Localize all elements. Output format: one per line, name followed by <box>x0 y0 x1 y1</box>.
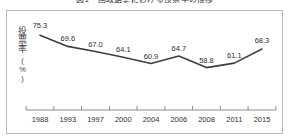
x-axis-tick-label: 2000 <box>115 115 132 124</box>
x-axis-tick-label: 2006 <box>170 115 187 124</box>
data-point-label: 64.1 <box>116 45 131 54</box>
x-axis-tick-label: 1997 <box>87 115 104 124</box>
x-axis-tick-label: 1988 <box>32 115 49 124</box>
data-point-label: 60.9 <box>144 52 159 61</box>
y-axis-title: 投票率 <box>17 26 27 53</box>
data-point-label: 69.6 <box>60 34 75 43</box>
chart-figure: 図1 国政選挙における投票率の推移 投票率 (%) 75.369.667.064… <box>0 0 290 139</box>
data-point-label: 64.7 <box>171 44 186 53</box>
data-point-label: 68.3 <box>255 36 270 45</box>
y-axis-title-group: 投票率 (%) <box>15 26 29 84</box>
x-axis-tick-label: 2008 <box>198 115 215 124</box>
x-axis-tick-label: 2011 <box>226 115 242 124</box>
x-axis-tick-label: 2004 <box>143 115 160 124</box>
data-point-label: 75.3 <box>33 21 48 30</box>
x-axis-tick-label: 1993 <box>59 115 76 124</box>
y-axis-unit: (%) <box>18 56 26 83</box>
data-point-label: 61.1 <box>227 51 242 60</box>
x-axis-tick-label: 2015 <box>254 115 271 124</box>
figure-caption-strip: 図1 国政選挙における投票率の推移 <box>0 0 290 9</box>
figure-caption: 図1 国政選挙における投票率の推移 <box>76 0 214 4</box>
data-point-label: 58.8 <box>199 56 214 65</box>
data-point-label: 67.0 <box>88 40 103 49</box>
